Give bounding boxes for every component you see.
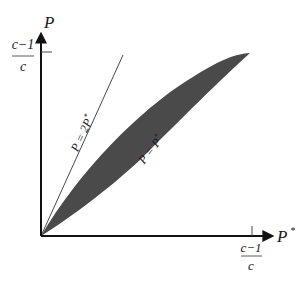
- x-axis-label: P: [276, 227, 287, 246]
- x-tick-numerator: c−1: [240, 240, 261, 255]
- diagram-canvas: P c−1 c P * c−1 c P = 2P* P = P*: [0, 0, 306, 281]
- svg-text:P = 2P*: P = 2P*: [67, 112, 97, 154]
- x-tick-denominator: c: [248, 258, 254, 273]
- y-tick-numerator: c−1: [12, 37, 35, 52]
- y-tick-denominator: c: [20, 59, 27, 74]
- x-axis-label-superscript: *: [290, 225, 295, 236]
- label-p-equals-2p-star: P = 2P*: [67, 112, 97, 154]
- y-axis-label: P: [43, 13, 54, 32]
